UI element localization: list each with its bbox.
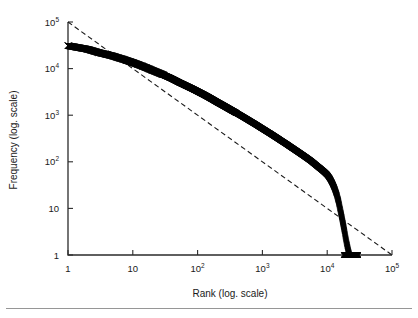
tick-label: 1 (54, 250, 59, 261)
y-axis-title: Frequency (log. scale) (8, 91, 19, 190)
figure-background (0, 0, 418, 318)
tick-label: 10 (128, 263, 139, 274)
tick-label: 1 (65, 263, 70, 274)
tick-label: 10 (48, 203, 59, 214)
x-axis-title: Rank (log. scale) (192, 288, 267, 299)
log-log-scatter-plot: 110102103104105110102103104105 Rank (log… (0, 0, 418, 318)
rank-frequency-figure: 110102103104105110102103104105 Rank (log… (0, 0, 418, 318)
